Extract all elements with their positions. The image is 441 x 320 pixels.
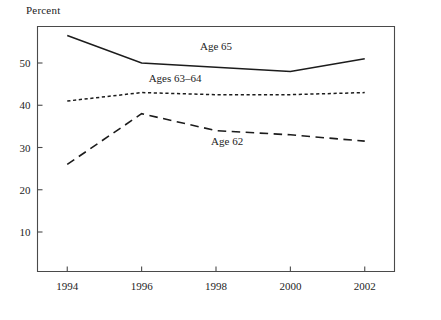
x-axis-tick-label: 2002 xyxy=(354,280,376,292)
y-axis-tick-label: 10 xyxy=(20,226,32,238)
series-label-age-65: Age 65 xyxy=(200,40,233,52)
series-label-ages-63-64: Ages 63–64 xyxy=(149,72,202,84)
x-axis-tick-label: 1994 xyxy=(56,280,79,292)
y-axis-tick-label: 40 xyxy=(20,99,32,111)
y-axis-tick-label: 20 xyxy=(20,184,32,196)
line-chart: Percent 102030405019941996199820002002Ag… xyxy=(0,0,441,320)
series-line-ages-63-64 xyxy=(67,93,365,101)
x-axis-tick-label: 1996 xyxy=(131,280,154,292)
y-axis-tick-label: 50 xyxy=(20,57,32,69)
series-label-age-62: Age 62 xyxy=(211,135,243,147)
y-axis-tick-label: 30 xyxy=(20,142,32,154)
x-axis-tick-label: 2000 xyxy=(279,280,302,292)
x-axis-tick-label: 1998 xyxy=(205,280,228,292)
chart-plot-area: 102030405019941996199820002002Age 65Ages… xyxy=(0,0,441,320)
